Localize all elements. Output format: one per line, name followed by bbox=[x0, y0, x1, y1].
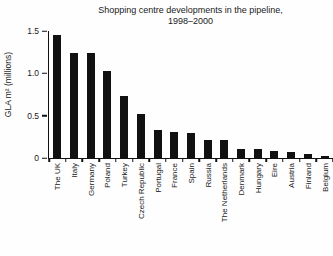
y-tick-label: 0 bbox=[34, 154, 39, 163]
bar bbox=[304, 154, 312, 158]
bar bbox=[154, 130, 162, 158]
bar-slot: Austria bbox=[283, 31, 300, 158]
bar bbox=[70, 53, 78, 158]
x-tick-mark bbox=[299, 158, 301, 162]
y-tick-mark bbox=[42, 30, 47, 32]
x-axis-label: Finland bbox=[303, 163, 312, 189]
bar-slot: Finland bbox=[300, 31, 317, 158]
x-axis-label: The UK bbox=[53, 163, 62, 190]
bar-slot: Turkey bbox=[116, 31, 133, 158]
y-axis-label: GLA m² (millions) bbox=[3, 52, 13, 117]
chart-title: Shopping centre developments in the pipe… bbox=[48, 5, 333, 27]
x-axis-label: Portugal bbox=[153, 163, 162, 193]
x-axis-label: Italy bbox=[70, 163, 79, 178]
bar-slot: Belgium bbox=[316, 31, 333, 158]
bar-slot: Germany bbox=[82, 31, 99, 158]
x-tick-mark bbox=[282, 158, 284, 162]
bar bbox=[237, 149, 245, 158]
x-axis-label: Spain bbox=[186, 163, 195, 183]
x-tick-mark bbox=[115, 158, 117, 162]
x-tick-mark bbox=[48, 158, 50, 162]
x-tick-mark bbox=[249, 158, 251, 162]
x-axis-label: Austria bbox=[287, 163, 296, 188]
x-tick-mark bbox=[165, 158, 167, 162]
x-axis-label: France bbox=[170, 163, 179, 188]
x-axis-label: Denmark bbox=[237, 163, 246, 195]
x-axis-label: The Netherlands bbox=[220, 163, 229, 222]
x-tick-mark bbox=[182, 158, 184, 162]
bar-slot: The Netherlands bbox=[216, 31, 233, 158]
bar bbox=[187, 133, 195, 158]
bar-slot: Czech Republic bbox=[133, 31, 150, 158]
x-tick-mark bbox=[265, 158, 267, 162]
y-tick-label: 0.5 bbox=[27, 111, 39, 120]
bar bbox=[220, 140, 228, 158]
bar bbox=[120, 96, 128, 158]
bar bbox=[87, 53, 95, 158]
bar-slot: Eire bbox=[266, 31, 283, 158]
bar-slot: Russia bbox=[199, 31, 216, 158]
x-axis-label: Poland bbox=[103, 163, 112, 188]
plot-area: 00.51.01.5 The UKItalyGermanyPolandTurke… bbox=[48, 31, 333, 159]
bar-slot: Hungary bbox=[249, 31, 266, 158]
bar bbox=[204, 140, 212, 158]
y-tick-mark bbox=[42, 73, 47, 75]
x-tick-mark bbox=[82, 158, 84, 162]
x-tick-mark bbox=[215, 158, 217, 162]
bar-slot: Portugal bbox=[149, 31, 166, 158]
x-axis-label: Hungary bbox=[253, 163, 262, 193]
bar bbox=[287, 152, 295, 158]
chart-title-line2: 1998–2000 bbox=[48, 16, 333, 27]
bar-slot: Poland bbox=[99, 31, 116, 158]
x-axis-label: Eire bbox=[270, 163, 279, 177]
x-tick-mark bbox=[98, 158, 100, 162]
y-tick-mark bbox=[42, 157, 47, 159]
x-axis-label: Czech Republic bbox=[136, 163, 145, 219]
bar bbox=[254, 149, 262, 158]
bar-slot: Italy bbox=[66, 31, 83, 158]
x-tick-mark bbox=[316, 158, 318, 162]
bar-slot: Denmark bbox=[233, 31, 250, 158]
bar-slot: Spain bbox=[183, 31, 200, 158]
bar-slot: The UK bbox=[49, 31, 66, 158]
y-tick-mark bbox=[42, 115, 47, 117]
y-tick-label: 1.0 bbox=[27, 69, 39, 78]
bar bbox=[321, 156, 329, 158]
bar bbox=[137, 114, 145, 158]
bar bbox=[53, 35, 61, 158]
x-tick-mark bbox=[132, 158, 134, 162]
y-tick-label: 1.5 bbox=[27, 27, 39, 36]
x-tick-mark bbox=[232, 158, 234, 162]
bar bbox=[270, 151, 278, 158]
bar bbox=[170, 132, 178, 158]
chart-title-line1: Shopping centre developments in the pipe… bbox=[48, 5, 333, 16]
bar-chart: Shopping centre developments in the pipe… bbox=[0, 0, 333, 256]
x-axis-label: Turkey bbox=[120, 163, 129, 187]
bar-slot: France bbox=[166, 31, 183, 158]
bar bbox=[103, 71, 111, 158]
x-tick-mark bbox=[65, 158, 67, 162]
x-axis-label: Germany bbox=[86, 163, 95, 196]
x-tick-mark bbox=[148, 158, 150, 162]
bar-layer: The UKItalyGermanyPolandTurkeyCzech Repu… bbox=[49, 31, 333, 158]
x-axis-label: Belgium bbox=[320, 163, 329, 192]
x-tick-mark bbox=[199, 158, 201, 162]
x-axis-label: Russia bbox=[203, 163, 212, 187]
